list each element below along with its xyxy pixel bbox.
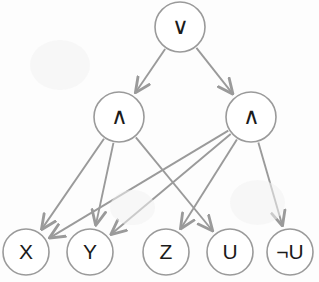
edge-and2-to-notu bbox=[258, 142, 282, 225]
node-or[interactable]: ∨ bbox=[155, 2, 205, 52]
node-and1[interactable]: ∧ bbox=[94, 92, 144, 142]
edge-and2-to-y bbox=[111, 134, 231, 234]
node-label-notu: ¬U bbox=[276, 240, 303, 263]
edge-or-to-and2 bbox=[196, 48, 232, 94]
edge-or-to-and1 bbox=[136, 49, 166, 93]
node-label-x: X bbox=[19, 240, 33, 263]
node-label-and1: ∧ bbox=[111, 103, 128, 129]
graph-svg: ∨∧∧XYZU¬U bbox=[0, 0, 319, 282]
node-layer: ∨∧∧XYZU¬U bbox=[3, 2, 313, 275]
node-y[interactable]: Y bbox=[67, 229, 113, 275]
edge-and1-to-y bbox=[96, 143, 114, 225]
edge-and1-to-u bbox=[136, 137, 213, 230]
node-label-and2: ∧ bbox=[243, 103, 260, 129]
node-label-u: U bbox=[222, 240, 237, 263]
edge-layer bbox=[42, 48, 283, 238]
node-z[interactable]: Z bbox=[143, 229, 189, 275]
node-and2[interactable]: ∧ bbox=[226, 92, 276, 142]
node-notu[interactable]: ¬U bbox=[267, 229, 313, 275]
node-label-y: Y bbox=[83, 240, 97, 263]
node-u[interactable]: U bbox=[207, 229, 253, 275]
edge-and2-to-x bbox=[50, 131, 229, 238]
node-label-z: Z bbox=[160, 240, 173, 263]
node-x[interactable]: X bbox=[3, 229, 49, 275]
edge-and1-to-x bbox=[42, 139, 104, 230]
node-label-or: ∨ bbox=[172, 13, 189, 39]
diagram-canvas: ∨∧∧XYZU¬U bbox=[0, 0, 319, 282]
